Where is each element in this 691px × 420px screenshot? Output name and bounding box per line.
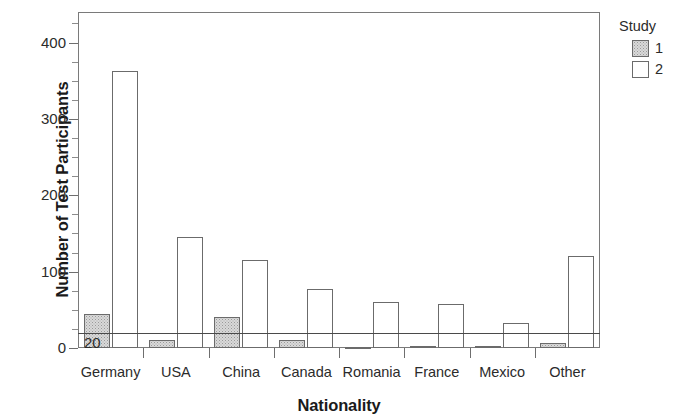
bar-china-study-2	[242, 260, 268, 348]
reference-line	[78, 333, 600, 334]
y-axis-minor-tick	[72, 81, 78, 82]
chart-figure: Number of Test Participants 010020030040…	[0, 0, 691, 420]
y-axis-major-tick	[69, 43, 78, 44]
y-axis-major-tick	[69, 272, 78, 273]
y-axis-tick-label: 400	[6, 35, 66, 50]
y-axis-minor-tick	[72, 233, 78, 234]
x-axis-title: Nationality	[78, 396, 600, 415]
bar-canada-study-1	[279, 340, 305, 348]
bar-romania-study-2	[373, 302, 399, 348]
x-axis-tick-label-canada: Canada	[274, 364, 339, 380]
x-axis-group-separator-tick	[470, 348, 471, 358]
bar-other-study-2	[568, 256, 594, 348]
x-axis-tick-label-france: France	[404, 364, 469, 380]
plot-area	[78, 12, 600, 348]
bar-usa-study-2	[177, 237, 203, 348]
legend-item-study-2: 2	[632, 61, 688, 78]
bar-canada-study-2	[307, 289, 333, 348]
reference-line-label: 20	[84, 335, 101, 350]
y-axis-tick-label: 300	[6, 111, 66, 126]
y-axis-minor-tick	[72, 138, 78, 139]
x-axis-group-separator-tick	[339, 348, 340, 358]
bar-mexico-study-2	[503, 323, 529, 348]
legend: Study 1 2	[618, 18, 688, 82]
y-axis-tick-label: 200	[6, 187, 66, 202]
x-axis-tick-label-china: China	[209, 364, 274, 380]
y-axis-major-tick	[69, 195, 78, 196]
y-axis-tick-label: 0	[6, 340, 66, 355]
x-axis-tick-label-other: Other	[535, 364, 600, 380]
legend-swatch-study-1	[632, 40, 649, 57]
legend-label-study-1: 1	[655, 41, 663, 56]
y-axis-minor-tick	[72, 214, 78, 215]
y-axis-minor-tick	[72, 157, 78, 158]
legend-label-study-2: 2	[655, 62, 663, 77]
legend-item-study-1: 1	[632, 40, 688, 57]
y-axis-minor-tick	[72, 329, 78, 330]
bar-mexico-study-1	[475, 346, 501, 348]
x-axis-group-separator-tick	[209, 348, 210, 358]
x-axis-tick-label-romania: Romania	[339, 364, 404, 380]
legend-swatch-study-2	[632, 61, 649, 78]
x-axis-tick-label-usa: USA	[143, 364, 208, 380]
y-axis-major-tick	[69, 348, 78, 349]
x-axis-group-separator-tick	[143, 348, 144, 358]
y-axis-minor-tick	[72, 176, 78, 177]
legend-title: Study	[618, 18, 688, 34]
y-axis-minor-tick	[72, 291, 78, 292]
x-axis-group-separator-tick	[274, 348, 275, 358]
bar-other-study-1	[540, 343, 566, 348]
y-axis-major-tick	[69, 119, 78, 120]
y-axis-minor-tick	[72, 253, 78, 254]
x-axis-group-separator-tick	[404, 348, 405, 358]
y-axis-minor-tick	[72, 62, 78, 63]
bar-usa-study-1	[149, 340, 175, 348]
bar-romania-study-1	[345, 347, 371, 349]
bar-france-study-2	[438, 304, 464, 348]
x-axis-tick-label-germany: Germany	[78, 364, 143, 380]
bar-france-study-1	[410, 346, 436, 348]
y-axis-minor-tick	[72, 23, 78, 24]
y-axis-minor-tick	[72, 310, 78, 311]
x-axis-group-separator-tick	[535, 348, 536, 358]
x-axis-tick-label-mexico: Mexico	[470, 364, 535, 380]
y-axis-tick-label: 100	[6, 264, 66, 279]
y-axis-minor-tick	[72, 100, 78, 101]
bar-germany-study-2	[112, 71, 138, 348]
